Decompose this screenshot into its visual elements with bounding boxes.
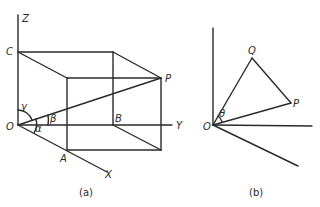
box-edge-bottom-right bbox=[113, 125, 161, 150]
origin-label-b: O bbox=[203, 121, 211, 132]
gamma-label: γ bbox=[21, 101, 28, 112]
horizontal-line bbox=[213, 125, 312, 126]
theta-label: θ bbox=[219, 108, 225, 119]
z-axis-label: Z bbox=[21, 13, 30, 24]
point-a-label: A bbox=[59, 153, 67, 164]
box-edge-top-right bbox=[113, 52, 161, 78]
figure-b: Q P θ O (b) bbox=[203, 28, 312, 198]
caption-a: (a) bbox=[79, 187, 93, 198]
point-p-label-b: P bbox=[293, 98, 300, 109]
figure-a: Z C P B Y O A X γ β α (a) bbox=[6, 13, 183, 198]
beta-label: β bbox=[49, 113, 57, 124]
lower-line bbox=[213, 125, 298, 166]
vector-op bbox=[18, 78, 161, 125]
point-p-label: P bbox=[165, 73, 172, 84]
segment-qp bbox=[252, 58, 291, 103]
box-edge-top-left bbox=[18, 52, 67, 78]
x-axis bbox=[18, 125, 107, 172]
origin-label: O bbox=[6, 121, 14, 132]
y-axis-label: Y bbox=[176, 120, 183, 131]
point-c-label: C bbox=[6, 46, 13, 57]
caption-b: (b) bbox=[249, 187, 263, 198]
point-q-label: Q bbox=[248, 45, 256, 56]
x-axis-label: X bbox=[104, 169, 113, 180]
figure-canvas: Z C P B Y O A X γ β α (a) Q P θ O (b) bbox=[0, 0, 320, 207]
alpha-label: α bbox=[35, 123, 42, 134]
point-b-label: B bbox=[115, 113, 122, 124]
